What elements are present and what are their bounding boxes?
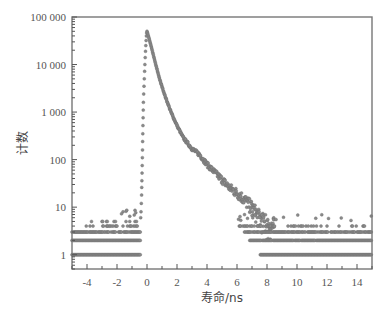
data-point: [240, 192, 243, 195]
data-point: [144, 50, 147, 53]
data-point: [355, 225, 358, 228]
data-point: [139, 239, 142, 242]
data-point: [251, 210, 254, 213]
data-point: [239, 215, 242, 218]
x-tick-label: 12: [322, 276, 333, 288]
x-axis-title: 寿命/ns: [201, 290, 243, 305]
y-tick-label: 10 000: [36, 59, 67, 71]
data-point: [125, 220, 128, 223]
data-point: [294, 225, 297, 228]
decay-chart: -4-202468101214 1101001 00010 000100 000…: [0, 0, 392, 320]
data-point: [287, 225, 290, 228]
data-point: [92, 225, 95, 228]
data-point: [264, 213, 267, 216]
data-point: [327, 217, 330, 220]
data-point: [350, 219, 353, 222]
data-point: [139, 216, 142, 219]
data-point: [302, 225, 305, 228]
data-point: [275, 218, 278, 221]
data-point: [143, 63, 146, 66]
y-tick-label: 1 000: [41, 106, 66, 118]
x-tick-label: -2: [112, 276, 121, 288]
data-point: [122, 225, 125, 228]
data-points: [71, 30, 373, 256]
data-point: [296, 214, 299, 217]
data-point: [254, 214, 257, 217]
data-point: [266, 218, 269, 221]
data-point: [142, 109, 145, 112]
data-point: [142, 101, 145, 104]
data-point: [139, 253, 142, 256]
data-point: [220, 175, 223, 178]
data-point: [125, 209, 128, 212]
data-point: [141, 140, 144, 143]
data-point: [312, 225, 315, 228]
data-point: [235, 189, 238, 192]
data-point: [248, 197, 251, 200]
data-point: [135, 220, 138, 223]
data-point: [140, 202, 143, 205]
data-point: [106, 220, 109, 223]
x-tick-label: 6: [234, 276, 240, 288]
data-point: [230, 184, 233, 187]
data-point: [338, 225, 341, 228]
data-point: [101, 220, 104, 223]
data-point: [143, 85, 146, 88]
x-axis: -4-202468101214: [72, 264, 372, 288]
data-point: [351, 225, 354, 228]
data-point: [89, 225, 92, 228]
data-point: [141, 164, 144, 167]
data-point: [326, 231, 329, 234]
data-point: [260, 220, 263, 223]
data-point: [243, 213, 246, 216]
data-point: [363, 225, 366, 228]
data-point: [260, 213, 263, 216]
data-point: [144, 56, 147, 59]
x-tick-label: 14: [352, 276, 364, 288]
data-point: [143, 77, 146, 80]
data-point: [143, 70, 146, 73]
data-point: [134, 211, 137, 214]
y-tick-label: 100 000: [30, 11, 66, 23]
data-point: [251, 216, 254, 219]
data-point: [320, 213, 323, 216]
data-point: [320, 225, 323, 228]
data-point: [142, 116, 145, 119]
data-point: [282, 216, 285, 219]
data-point: [315, 225, 318, 228]
x-tick-label: 10: [292, 276, 304, 288]
data-point: [114, 231, 117, 234]
data-point: [128, 215, 131, 218]
data-point: [85, 225, 88, 228]
data-point: [239, 195, 242, 198]
data-point: [254, 204, 257, 207]
data-point: [260, 225, 263, 228]
data-point: [239, 219, 242, 222]
data-point: [139, 231, 142, 234]
data-point: [114, 220, 117, 223]
data-point: [258, 210, 261, 213]
data-point: [140, 194, 143, 197]
data-point: [116, 225, 119, 228]
data-point: [340, 216, 343, 219]
data-point: [307, 225, 310, 228]
data-point: [90, 220, 93, 223]
x-tick-label: 0: [144, 276, 150, 288]
data-point: [326, 225, 329, 228]
data-point: [144, 44, 147, 47]
data-point: [314, 217, 317, 220]
data-point: [254, 221, 257, 224]
data-point: [141, 124, 144, 127]
data-point: [246, 217, 249, 220]
data-point: [140, 210, 143, 213]
data-point: [141, 172, 144, 175]
data-point: [140, 186, 143, 189]
y-tick-label: 1: [61, 249, 67, 261]
data-point: [122, 210, 125, 213]
data-point: [258, 216, 261, 219]
data-point: [253, 225, 256, 228]
data-point: [141, 156, 144, 159]
data-point: [142, 93, 145, 96]
y-axis-title: 计数: [15, 131, 30, 155]
data-point: [136, 225, 139, 228]
